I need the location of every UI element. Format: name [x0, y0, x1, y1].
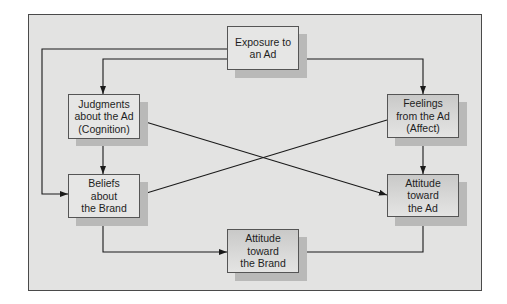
node-attitude-ad: Attitude toward the Ad — [387, 174, 459, 217]
edge-exposure-judgments — [103, 59, 227, 94]
node-attitude-brand: Attitude toward the Brand — [227, 229, 299, 273]
node-judgments: Judgments about the Ad (Cognition) — [68, 94, 140, 139]
node-feelings: Feelings from the Ad (Affect) — [387, 94, 459, 138]
node-exposure: Exposure to an Ad — [227, 26, 299, 70]
node-beliefs: Beliefs about the Brand — [68, 174, 140, 218]
edge-exposure-feelings — [298, 59, 423, 94]
